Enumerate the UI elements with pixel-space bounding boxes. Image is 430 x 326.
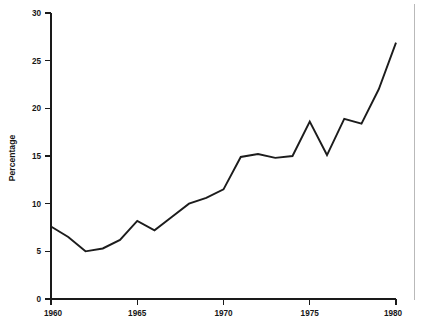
chart-container: 0 5 10 15 20 25 30 1960 1965 1970 1975 1… bbox=[0, 0, 430, 326]
y-tick-label-0: 0 bbox=[36, 295, 41, 304]
y-tick-label-20: 20 bbox=[32, 104, 42, 113]
y-tick-label-30: 30 bbox=[32, 9, 42, 18]
x-tick-label-1965: 1965 bbox=[128, 309, 147, 318]
x-tick-label-1975: 1975 bbox=[301, 309, 320, 318]
x-tick-label-1970: 1970 bbox=[214, 309, 233, 318]
y-tick-label-25: 25 bbox=[32, 57, 42, 66]
x-tick-label-1960: 1960 bbox=[44, 309, 63, 318]
line-chart: 0 5 10 15 20 25 30 1960 1965 1970 1975 1… bbox=[0, 0, 430, 326]
y-axis-ticks bbox=[45, 13, 51, 299]
x-axis-ticks bbox=[51, 299, 396, 305]
x-tick-label-1980: 1980 bbox=[384, 309, 403, 318]
y-tick-label-5: 5 bbox=[36, 247, 41, 256]
y-tick-label-10: 10 bbox=[32, 200, 42, 209]
y-axis-title: Percentage bbox=[7, 135, 17, 182]
data-series-line bbox=[51, 43, 396, 252]
y-tick-label-15: 15 bbox=[32, 152, 42, 161]
